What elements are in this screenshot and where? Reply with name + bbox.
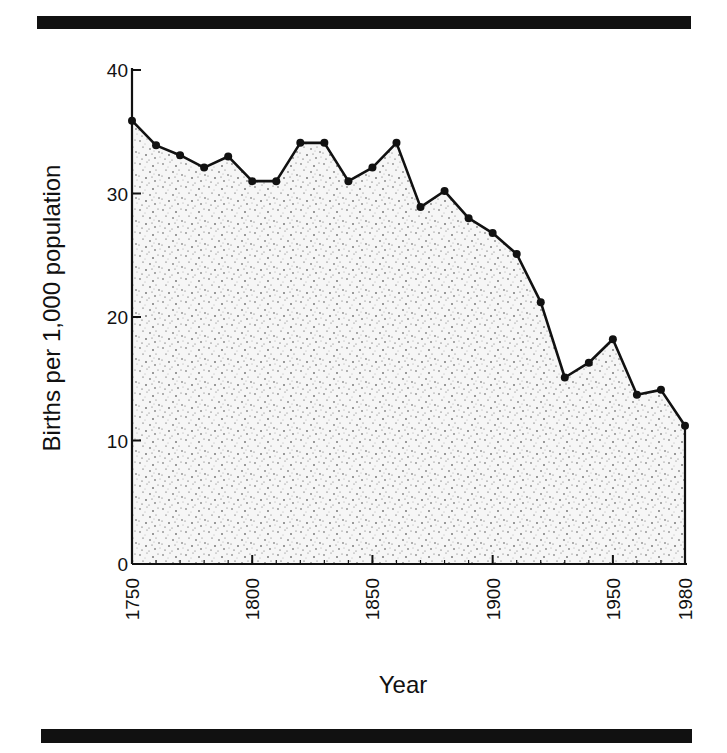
x-tick-label: 1950 <box>603 578 624 620</box>
data-point <box>417 203 425 211</box>
x-tick-label: 1900 <box>483 578 504 620</box>
data-point <box>609 335 617 343</box>
data-point <box>344 177 352 185</box>
x-axis-title: Year <box>379 671 428 698</box>
data-point <box>152 141 160 149</box>
y-tick-label: 0 <box>117 554 128 575</box>
data-point <box>272 177 280 185</box>
data-point <box>513 250 521 258</box>
birth-rate-chart: 010203040175018001850190019501980 Year B… <box>0 0 727 753</box>
data-point <box>296 139 304 147</box>
data-point <box>489 229 497 237</box>
data-point <box>392 139 400 147</box>
data-point <box>657 386 665 394</box>
plot-area <box>128 117 689 564</box>
area-fill <box>132 121 685 564</box>
data-point <box>633 391 641 399</box>
data-point <box>320 139 328 147</box>
y-tick-label: 30 <box>107 184 128 205</box>
data-point <box>176 151 184 159</box>
data-point <box>368 164 376 172</box>
x-tick-label: 1750 <box>122 578 143 620</box>
data-point <box>561 374 569 382</box>
y-tick-label: 40 <box>107 60 128 81</box>
y-axis-title: Births per 1,000 population <box>38 165 65 452</box>
data-point <box>681 422 689 430</box>
data-point <box>585 359 593 367</box>
x-tick-label: 1800 <box>242 578 263 620</box>
x-tick-label: 1980 <box>675 578 696 620</box>
data-point <box>200 164 208 172</box>
y-tick-label: 20 <box>107 307 128 328</box>
data-point <box>248 177 256 185</box>
x-tick-label: 1850 <box>362 578 383 620</box>
data-point <box>224 152 232 160</box>
data-point <box>465 214 473 222</box>
data-point <box>441 187 449 195</box>
data-point <box>537 298 545 306</box>
y-tick-label: 10 <box>107 431 128 452</box>
